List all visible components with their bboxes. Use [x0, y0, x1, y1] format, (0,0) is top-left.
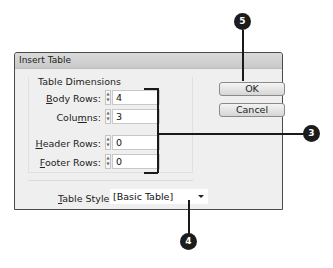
callout-5-leader-line	[242, 30, 244, 81]
footer-rows-spinner[interactable]: ▲ ▼	[105, 154, 111, 169]
callout-4: 4	[180, 233, 197, 250]
callout-3: 3	[303, 125, 320, 142]
header-rows-label: Header Rows:	[15, 138, 101, 149]
footer-rows-label: Footer Rows:	[15, 157, 101, 168]
spin-down-icon[interactable]: ▼	[106, 142, 110, 148]
spin-down-icon[interactable]: ▼	[106, 161, 110, 167]
header-rows-spinner[interactable]: ▲ ▼	[105, 135, 111, 150]
callout-3-bracket-top	[144, 88, 158, 90]
header-rows-input[interactable]: 0	[112, 135, 160, 150]
columns-input[interactable]: 3	[112, 109, 160, 124]
columns-label: Columns:	[15, 112, 101, 123]
body-rows-label: Body Rows:	[15, 93, 101, 104]
callout-3-bracket-vertical	[157, 88, 159, 173]
dropdown-arrow-icon[interactable]	[198, 195, 204, 198]
separator	[28, 180, 193, 181]
table-style-value: [Basic Table]	[113, 191, 173, 202]
spin-down-icon[interactable]: ▼	[106, 97, 110, 103]
footer-rows-input[interactable]: 0	[112, 154, 160, 169]
table-style-label: Table Style:	[58, 193, 113, 204]
callout-5: 5	[234, 13, 251, 30]
table-dimensions-title: Table Dimensions	[38, 76, 121, 87]
spin-down-icon[interactable]: ▼	[106, 116, 110, 122]
callout-4-leader-line	[188, 200, 190, 236]
columns-spinner[interactable]: ▲ ▼	[105, 109, 111, 124]
cancel-button[interactable]: Cancel	[219, 103, 285, 117]
callout-3-bracket-bottom	[144, 172, 158, 174]
body-rows-spinner[interactable]: ▲ ▼	[105, 90, 111, 105]
callout-3-leader-line	[157, 133, 305, 135]
body-rows-input[interactable]: 4	[112, 90, 160, 105]
dialog-title: Insert Table	[19, 55, 71, 65]
ok-button[interactable]: OK	[219, 82, 285, 96]
table-style-select[interactable]: [Basic Table]	[110, 189, 208, 204]
